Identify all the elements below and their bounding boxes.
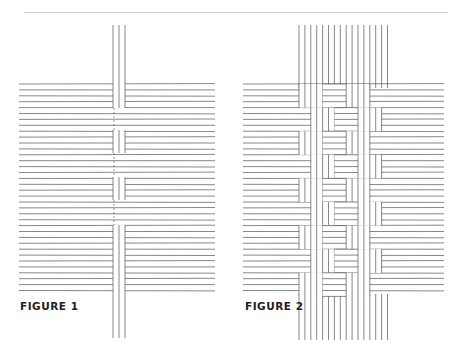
figure-2-label: FIGURE 2 [245, 300, 303, 312]
figure-1-label: FIGURE 1 [20, 300, 78, 312]
